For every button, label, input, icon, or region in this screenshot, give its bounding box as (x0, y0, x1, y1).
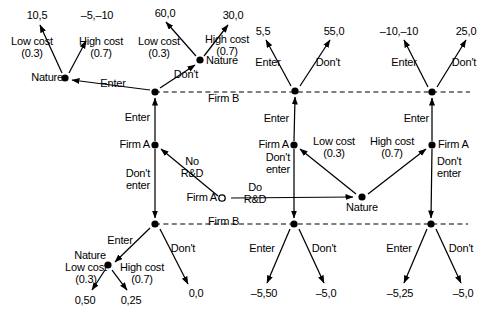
node-firm-b-bot-left (151, 220, 158, 227)
label-tl-low-prob: (0.3) (21, 48, 43, 60)
action-bm-dont: Don't (312, 243, 336, 255)
payoff-top-left-low: 10,5 (27, 10, 48, 22)
payoff-bot-left-high: 0,25 (121, 295, 142, 307)
node-nature-top-mid (196, 56, 203, 63)
action-do-rnd: DoR&D (244, 182, 267, 205)
node-firm-a-left (151, 141, 158, 148)
payoff-bot-right-enter: –5,25 (387, 288, 414, 300)
action-br-enter: Enter (386, 243, 411, 255)
action-left-enter: Enter (125, 112, 150, 124)
node-firm-b-bot-right (427, 220, 434, 227)
node-firm-b-top-mid (291, 87, 298, 94)
payoff-top-mid-high: 30,0 (223, 10, 244, 22)
payoff-mid-enter: 5,5 (256, 26, 271, 38)
edge-br-enter (404, 229, 427, 283)
label-nature-top-left: Nature (31, 72, 63, 84)
action-right-dont-enter: Don'tenter (437, 156, 461, 179)
payoff-top-mid-low: 60,0 (155, 8, 176, 20)
action-tmid-enter: Enter (255, 57, 280, 69)
edge-tl-low-cost (40, 25, 62, 73)
label-nature-rnd: Nature (346, 202, 378, 214)
action-no-rnd: NoR&D (181, 156, 204, 179)
payoff-bot-left-low: 0,50 (75, 295, 96, 307)
label-tl-low-cost: Low cost (11, 36, 53, 48)
label-firm-a-left: Firm A (119, 139, 150, 151)
action-tmid-dont: Don't (316, 57, 340, 69)
label-rnd-low-cost: Low cost (313, 136, 355, 148)
action-bm-enter: Enter (249, 243, 274, 255)
action-right-enter: Enter (404, 113, 429, 125)
label-tl-high-prob: (0.7) (90, 48, 112, 60)
action-br-dont: Don't (449, 243, 473, 255)
label-bl-low-prob: (0.3) (75, 274, 97, 286)
label-tm-high-cost: High cost (205, 34, 249, 46)
payoff-right-enter: –10,–10 (380, 26, 418, 38)
label-tm-low-prob: (0.3) (148, 48, 170, 60)
label-firm-a-right: Firm A (438, 139, 469, 151)
label-firm-b-top: Firm B (208, 93, 239, 105)
node-firm-b-bot-mid (290, 220, 297, 227)
node-firm-a-right (428, 141, 435, 148)
node-firm-a-mid (290, 141, 297, 148)
edge-bm-dont (299, 229, 324, 283)
action-tr-dont: Don't (452, 57, 476, 69)
game-tree-figure: 10,5 –5,–10 60,0 30,0 5,5 55,0 –10,–10 2… (0, 0, 486, 319)
action-tl-dont: Don't (174, 69, 198, 81)
label-firm-a-mid: Firm A (258, 139, 289, 151)
label-bl-high-cost: High cost (120, 262, 164, 274)
action-bl-enter: Enter (107, 235, 132, 247)
action-bl-dont: Don't (171, 243, 195, 255)
label-rnd-low-prob: (0.3) (323, 148, 345, 160)
payoff-bot-mid-enter: –5,50 (251, 288, 278, 300)
label-bl-high-prob: (0.7) (131, 274, 153, 286)
action-tr-enter: Enter (391, 57, 416, 69)
edge-br-dont (436, 229, 461, 283)
node-root-firm-a (219, 195, 225, 201)
node-firm-b-top-right (428, 88, 435, 95)
edge-bm-enter (267, 229, 290, 283)
label-bl-low-cost: Low cost (65, 262, 107, 274)
payoff-bot-mid-dont: –5,0 (316, 288, 337, 300)
payoff-top-left-high: –5,–10 (81, 10, 113, 22)
node-nature-rnd (358, 193, 365, 200)
payoff-bot-right-dont: –5,0 (453, 288, 474, 300)
action-mid-dont-enter: Don'tenter (266, 152, 290, 175)
edge-mid-enter (294, 97, 295, 141)
label-rnd-high-cost: High cost (370, 136, 414, 148)
payoff-bot-left-dont: 0,0 (189, 288, 204, 300)
action-tl-enter: Enter (100, 78, 125, 90)
label-rnd-high-prob: (0.7) (381, 148, 403, 160)
action-mid-enter: Enter (264, 113, 289, 125)
label-tm-low-cost: Low cost (138, 36, 180, 48)
edge-right-dont-enter (431, 149, 432, 218)
label-nature-top-mid: Nature (206, 55, 238, 67)
label-firm-b-bottom: Firm B (208, 216, 239, 228)
edge-bl-dont (160, 229, 188, 284)
payoff-mid-dont: 55,0 (324, 26, 345, 38)
label-firm-a-root: Firm A (186, 192, 217, 204)
label-tl-high-cost: High cost (79, 36, 123, 48)
node-firm-b-top-left (151, 88, 158, 95)
payoff-right-dont: 25,0 (456, 26, 477, 38)
action-left-dont-enter: EnterDon'tenter (126, 168, 150, 191)
label-nature-bot-left: Nature (74, 250, 106, 262)
